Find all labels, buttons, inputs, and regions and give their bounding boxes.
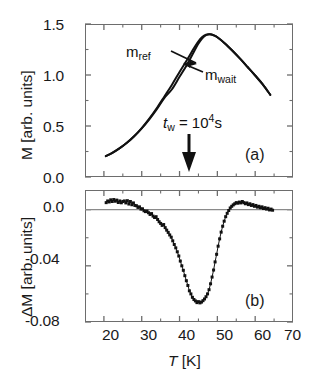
- figure-container: M [arb. units] 1.5 1.0 0.5 0.0 (a) mref …: [0, 0, 314, 386]
- xtick-70: 70: [284, 326, 301, 344]
- xtick-40: 40: [178, 326, 195, 344]
- xtick-50: 50: [216, 326, 233, 344]
- xtick-20: 20: [102, 326, 119, 344]
- xtick-60: 60: [254, 326, 271, 344]
- x-axis-title: T [K]: [168, 352, 201, 370]
- x-axis-title-unit: [K]: [177, 352, 200, 369]
- xtick-30: 30: [140, 326, 157, 344]
